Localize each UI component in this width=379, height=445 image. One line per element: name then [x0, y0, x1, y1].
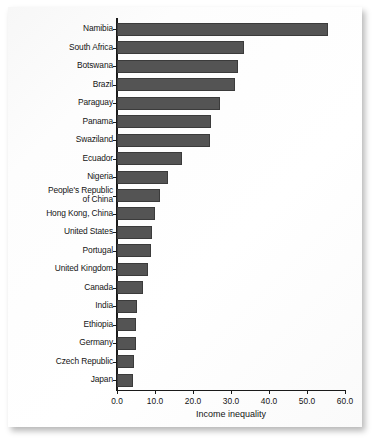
y-axis-tick — [113, 29, 116, 30]
category-label: India — [95, 301, 113, 310]
x-axis-tick-label: 60.0 — [337, 396, 353, 406]
y-axis-tick — [113, 251, 116, 252]
bar — [117, 226, 152, 239]
x-axis-tick-label: 30.0 — [223, 396, 239, 406]
bar — [117, 134, 210, 147]
bar — [117, 171, 168, 184]
y-axis-tick — [113, 380, 116, 381]
y-axis-tick — [113, 140, 116, 141]
x-axis-tick-label: 0.0 — [111, 396, 123, 406]
bar — [117, 244, 151, 257]
y-axis-tick — [113, 159, 116, 160]
bar — [117, 281, 143, 294]
y-axis-tick — [113, 325, 116, 326]
x-axis-tick-label: 20.0 — [185, 396, 201, 406]
bar-chart-plot: Income inequality NamibiaSouth AfricaBot… — [0, 0, 379, 445]
category-label: Portugal — [83, 246, 113, 255]
category-label: Canada — [84, 283, 113, 292]
y-axis-tick — [113, 288, 116, 289]
category-label: Japan — [91, 375, 113, 384]
x-axis-tick — [231, 391, 232, 395]
category-label: Swaziland — [76, 135, 113, 144]
category-label: Ethiopia — [84, 320, 113, 329]
bar — [117, 97, 220, 110]
bar — [117, 374, 133, 387]
chart-figure: Income inequality NamibiaSouth AfricaBot… — [0, 0, 379, 445]
y-axis-tick — [113, 196, 116, 197]
y-axis-tick — [113, 103, 116, 104]
category-label: Brazil — [93, 80, 113, 89]
y-axis-tick — [113, 343, 116, 344]
y-axis-tick — [113, 269, 116, 270]
bar — [117, 60, 238, 73]
bar — [117, 23, 328, 36]
bar — [117, 41, 244, 54]
x-axis-tick-label: 50.0 — [299, 396, 315, 406]
category-label: Germany — [79, 338, 113, 347]
y-axis-tick — [113, 85, 116, 86]
bar — [117, 115, 211, 128]
bar — [117, 318, 136, 331]
y-axis-line — [116, 18, 117, 390]
y-axis-tick — [113, 362, 116, 363]
bar — [117, 337, 136, 350]
y-axis-tick — [113, 214, 116, 215]
category-label: Nigeria — [87, 172, 113, 181]
x-axis-tick — [307, 391, 308, 395]
category-label: Panama — [82, 117, 113, 126]
y-axis-tick — [113, 66, 116, 67]
bar — [117, 189, 160, 202]
y-axis-tick — [113, 48, 116, 49]
category-label: Hong Kong, China — [46, 209, 113, 218]
x-axis-tick — [345, 391, 346, 395]
category-label: United Kingdom — [55, 264, 113, 273]
category-label: Namibia — [83, 24, 113, 33]
x-axis-tick — [193, 391, 194, 395]
bar — [117, 152, 182, 165]
y-axis-tick — [113, 232, 116, 233]
x-axis-tick-label: 40.0 — [261, 396, 277, 406]
category-label: People's Republic of China — [48, 186, 113, 204]
category-label: Ecuador — [83, 154, 114, 163]
x-axis-tick-label: 10.0 — [147, 396, 163, 406]
x-axis-tick — [117, 391, 118, 395]
bar — [117, 78, 235, 91]
y-axis-tick — [113, 177, 116, 178]
x-axis-tick — [155, 391, 156, 395]
y-axis-tick — [113, 122, 116, 123]
bar — [117, 263, 148, 276]
category-label: Czech Republic — [56, 357, 113, 366]
category-label: Botswana — [77, 61, 113, 70]
x-axis-label: Income inequality — [42, 409, 379, 419]
category-label: South Africa — [69, 43, 113, 52]
x-axis-tick — [269, 391, 270, 395]
category-label: United States — [64, 227, 113, 236]
bar — [117, 355, 134, 368]
bar — [117, 300, 137, 313]
bar — [117, 207, 155, 220]
category-label: Paraguay — [78, 98, 113, 107]
y-axis-tick — [113, 306, 116, 307]
